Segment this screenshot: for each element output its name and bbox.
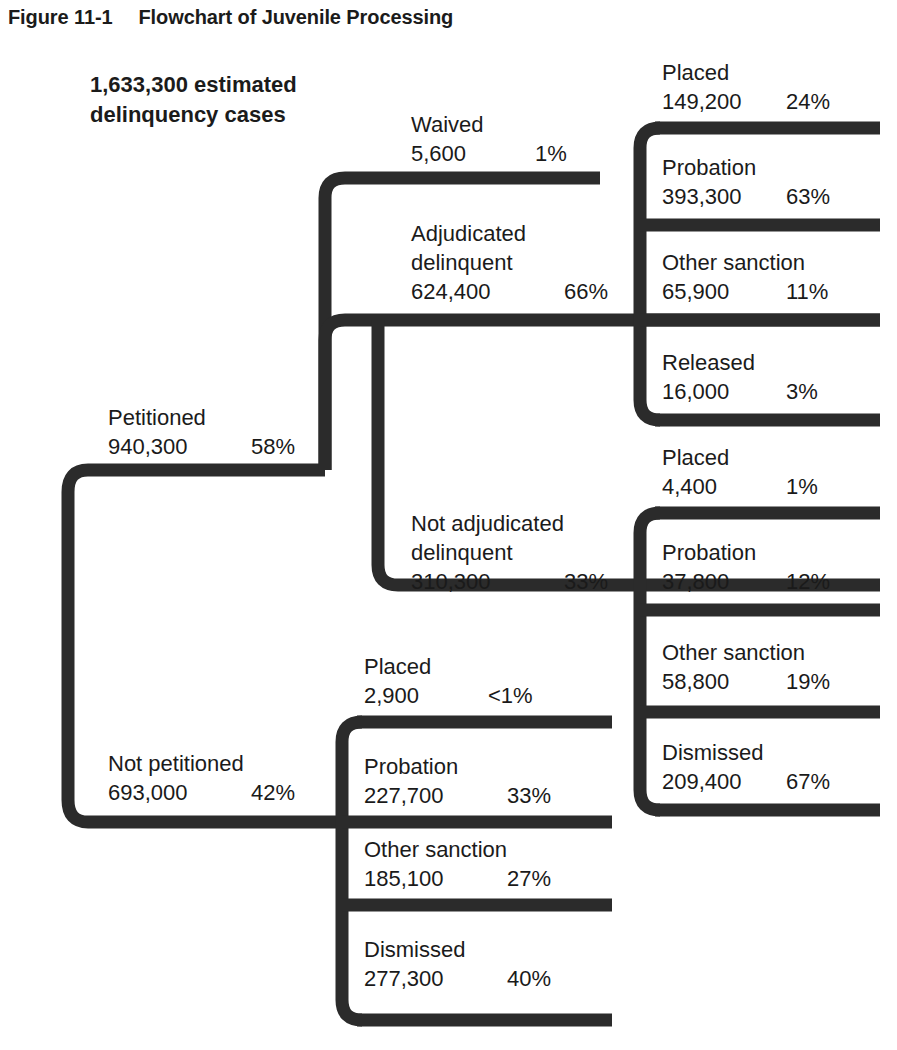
node-np-probation-pct: 33% [507, 781, 551, 810]
node-nadj-probation-value: 37,800 [662, 567, 729, 596]
node-np-other-values: 185,100 27% [364, 864, 507, 893]
node-nadj-dismissed: Dismissed 209,400 67% [662, 738, 763, 796]
node-nadj-other-label: Other sanction [662, 638, 805, 667]
node-np-dismissed-values: 277,300 40% [364, 964, 465, 993]
node-not-petitioned-pct: 42% [251, 778, 295, 807]
node-np-dismissed: Dismissed 277,300 40% [364, 935, 465, 993]
node-np-placed-value: 2,900 [364, 681, 419, 710]
node-not-petitioned-label: Not petitioned [108, 749, 244, 778]
node-adj-other-value: 65,900 [662, 277, 729, 306]
node-np-placed: Placed 2,900 <1% [364, 652, 431, 710]
node-np-other: Other sanction 185,100 27% [364, 835, 507, 893]
node-np-placed-pct: <1% [488, 681, 533, 710]
root-total-line1: 1,633,300 estimated [90, 70, 297, 100]
node-adj-other-pct: 11% [786, 277, 828, 306]
node-np-dismissed-label: Dismissed [364, 935, 465, 964]
node-np-other-label: Other sanction [364, 835, 507, 864]
node-adjudicated-value: 624,400 [411, 277, 491, 306]
node-adjudicated-label-line1: Adjudicated [411, 219, 526, 248]
node-waived: Waived 5,600 1% [411, 110, 484, 168]
node-adjudicated-label-line2: delinquent [411, 248, 526, 277]
node-not-adjudicated-label-line2: delinquent [411, 538, 564, 567]
node-waived-values: 5,600 1% [411, 139, 484, 168]
node-petitioned-values: 940,300 58% [108, 432, 206, 461]
node-not-adjudicated-value: 310,300 [411, 567, 491, 596]
node-nadj-probation-values: 37,800 12% [662, 567, 756, 596]
node-nadj-other-values: 58,800 19% [662, 667, 805, 696]
node-adj-other: Other sanction 65,900 11% [662, 248, 805, 306]
node-adj-released-label: Released [662, 348, 755, 377]
node-nadj-dismissed-label: Dismissed [662, 738, 763, 767]
node-adj-placed: Placed 149,200 24% [662, 58, 729, 116]
node-petitioned-pct: 58% [251, 432, 295, 461]
node-waived-pct: 1% [535, 139, 567, 168]
node-np-other-pct: 27% [507, 864, 551, 893]
root-total-label: 1,633,300 estimated delinquency cases [90, 70, 297, 130]
node-np-probation-label: Probation [364, 752, 458, 781]
node-not-petitioned-values: 693,000 42% [108, 778, 244, 807]
node-adj-probation-pct: 63% [786, 182, 830, 211]
node-np-other-value: 185,100 [364, 864, 444, 893]
node-petitioned-label: Petitioned [108, 403, 206, 432]
node-waived-value: 5,600 [411, 139, 466, 168]
node-adj-other-label: Other sanction [662, 248, 805, 277]
node-nadj-placed-label: Placed [662, 443, 729, 472]
node-waived-label: Waived [411, 110, 484, 139]
node-nadj-probation-label: Probation [662, 538, 756, 567]
node-adj-released-value: 16,000 [662, 377, 729, 406]
node-adj-probation-label: Probation [662, 153, 756, 182]
node-np-placed-label: Placed [364, 652, 431, 681]
node-nadj-placed-pct: 1% [786, 472, 818, 501]
node-not-adjudicated-values: 310,300 33% [411, 567, 564, 596]
node-not-petitioned-value: 693,000 [108, 778, 188, 807]
node-adjudicated-values: 624,400 66% [411, 277, 526, 306]
node-nadj-other-value: 58,800 [662, 667, 729, 696]
figure-container: Figure 11-1Flowchart of Juvenile Process… [0, 0, 897, 1050]
node-not-adjudicated: Not adjudicated delinquent 310,300 33% [411, 509, 564, 596]
node-not-adjudicated-pct: 33% [564, 567, 608, 596]
node-np-dismissed-value: 277,300 [364, 964, 444, 993]
node-adj-placed-value: 149,200 [662, 87, 742, 116]
node-adj-released: Released 16,000 3% [662, 348, 755, 406]
node-petitioned: Petitioned 940,300 58% [108, 403, 206, 461]
node-not-petitioned: Not petitioned 693,000 42% [108, 749, 244, 807]
adj-comb-spine [640, 128, 660, 420]
node-nadj-other: Other sanction 58,800 19% [662, 638, 805, 696]
node-adj-released-values: 16,000 3% [662, 377, 755, 406]
node-adj-probation: Probation 393,300 63% [662, 153, 756, 211]
node-adj-other-values: 65,900 11% [662, 277, 805, 306]
node-np-probation-values: 227,700 33% [364, 781, 458, 810]
node-adj-placed-pct: 24% [786, 87, 830, 116]
node-nadj-placed: Placed 4,400 1% [662, 443, 729, 501]
node-nadj-placed-value: 4,400 [662, 472, 717, 501]
node-adj-probation-value: 393,300 [662, 182, 742, 211]
node-adj-placed-label: Placed [662, 58, 729, 87]
root-total-line2: delinquency cases [90, 100, 297, 130]
node-adjudicated-pct: 66% [564, 277, 608, 306]
node-nadj-probation-pct: 12% [786, 567, 830, 596]
node-adj-probation-values: 393,300 63% [662, 182, 756, 211]
node-np-placed-values: 2,900 <1% [364, 681, 431, 710]
node-adjudicated: Adjudicated delinquent 624,400 66% [411, 219, 526, 306]
node-nadj-dismissed-value: 209,400 [662, 767, 742, 796]
node-adj-released-pct: 3% [786, 377, 818, 406]
node-np-dismissed-pct: 40% [507, 964, 551, 993]
node-adj-placed-values: 149,200 24% [662, 87, 729, 116]
node-nadj-placed-values: 4,400 1% [662, 472, 729, 501]
node-nadj-dismissed-values: 209,400 67% [662, 767, 763, 796]
node-nadj-dismissed-pct: 67% [786, 767, 830, 796]
node-petitioned-value: 940,300 [108, 432, 188, 461]
node-np-probation-value: 227,700 [364, 781, 444, 810]
node-not-adjudicated-label-line1: Not adjudicated [411, 509, 564, 538]
node-np-probation: Probation 227,700 33% [364, 752, 458, 810]
np-comb-spine [342, 722, 362, 1020]
node-nadj-probation: Probation 37,800 12% [662, 538, 756, 596]
nadj-comb-spine [640, 513, 660, 810]
node-nadj-other-pct: 19% [786, 667, 830, 696]
